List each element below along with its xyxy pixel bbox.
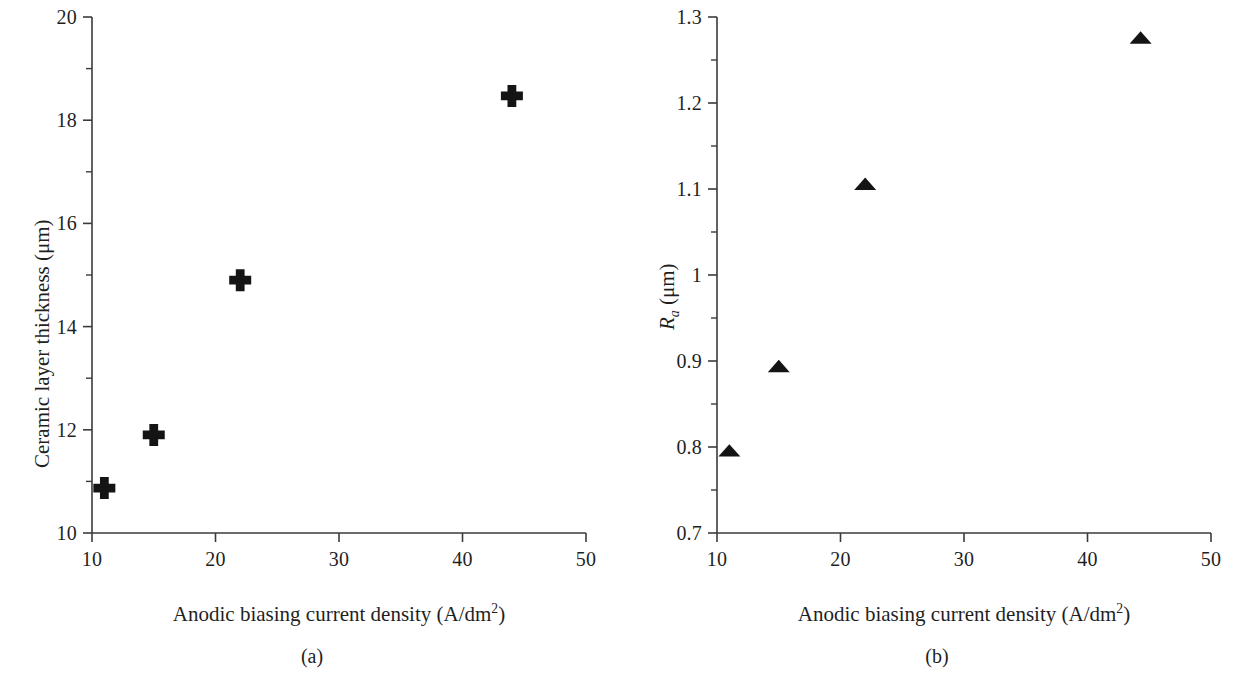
y-axis-title-a: Ceramic layer thickness (μm)	[30, 219, 55, 468]
panel-caption-a: (a)	[0, 645, 624, 668]
panel-caption-b: (b)	[625, 645, 1249, 668]
y-axis-title-b: Ra (μm)	[655, 263, 683, 330]
y-tick-label: 1.2	[625, 92, 702, 115]
x-axis-title-main: Anodic biasing current density (A/dm	[798, 602, 1116, 626]
x-tick-label: 50	[1201, 548, 1221, 571]
plot-area-a	[0, 0, 624, 674]
x-tick-label: 10	[707, 548, 727, 571]
x-axis-title-tail: )	[498, 602, 505, 626]
data-point-marker	[718, 444, 740, 456]
y-tick-label: 18	[0, 109, 77, 132]
panel-b: 0.70.80.911.11.21.31020304050 Anodic bia…	[625, 0, 1249, 674]
data-point-marker	[143, 424, 165, 446]
x-tick-label: 20	[205, 548, 225, 571]
x-tick-label: 30	[954, 548, 974, 571]
x-tick-label: 10	[82, 548, 102, 571]
data-point-marker	[501, 85, 523, 107]
y-tick-label: 0.7	[625, 522, 702, 545]
x-tick-label: 30	[329, 548, 349, 571]
y-tick-label: 0.8	[625, 436, 702, 459]
x-tick-label: 40	[452, 548, 472, 571]
x-tick-label: 50	[576, 548, 596, 571]
plot-area-b	[625, 0, 1249, 674]
panel-a: 1012141618201020304050 Anodic biasing cu…	[0, 0, 624, 674]
x-tick-label: 40	[1077, 548, 1097, 571]
y-axis-title-text: Ceramic layer thickness (μm)	[30, 219, 54, 468]
data-point-marker	[768, 360, 790, 372]
y-tick-label: 0.9	[625, 350, 702, 373]
x-axis-title-a: Anodic biasing current density (A/dm2)	[173, 601, 505, 627]
x-axis-title-main: Anodic biasing current density (A/dm	[173, 602, 491, 626]
y-tick-label: 20	[0, 6, 77, 29]
data-point-marker	[93, 477, 115, 499]
y-axis-title-subscript: a	[667, 310, 682, 317]
x-tick-label: 20	[830, 548, 850, 571]
y-axis-title-units: (μm)	[655, 263, 679, 310]
data-point-marker	[229, 269, 251, 291]
x-axis-title-tail: )	[1123, 602, 1130, 626]
x-axis-title-b: Anodic biasing current density (A/dm2)	[798, 601, 1130, 627]
y-tick-label: 10	[0, 522, 77, 545]
axis-spine	[717, 17, 1211, 533]
y-axis-title-symbol: R	[655, 317, 679, 330]
figure-container: 1012141618201020304050 Anodic biasing cu…	[0, 0, 1249, 674]
data-point-marker	[1130, 31, 1152, 43]
y-tick-label: 1.3	[625, 6, 702, 29]
y-tick-label: 1.1	[625, 178, 702, 201]
data-point-marker	[854, 178, 876, 190]
